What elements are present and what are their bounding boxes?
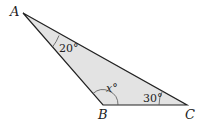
vertex-label-a: A bbox=[9, 4, 19, 19]
vertex-label-c: C bbox=[185, 107, 195, 122]
angle-label-c: 30° bbox=[143, 92, 163, 105]
vertex-label-b: B bbox=[97, 107, 108, 122]
angle-label-a: 20° bbox=[59, 42, 79, 55]
angle-label-b: x° bbox=[106, 82, 118, 95]
triangle-diagram: A B C 20° x° 30° bbox=[0, 0, 204, 126]
